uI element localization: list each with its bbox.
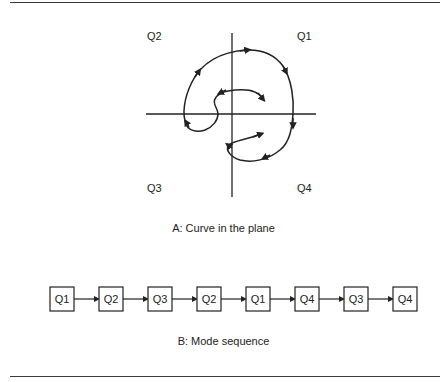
svg-text:Q3: Q3 bbox=[153, 293, 168, 305]
svg-text:Q1: Q1 bbox=[55, 293, 70, 305]
svg-text:Q2: Q2 bbox=[202, 293, 217, 305]
mode-box: Q3 bbox=[344, 287, 368, 311]
mode-sequence: Q1 Q2 Q3 Q2 Q1 Q4 Q3 bbox=[50, 287, 417, 311]
svg-text:Q2: Q2 bbox=[104, 293, 119, 305]
mode-box: Q2 bbox=[99, 287, 123, 311]
caption-part-b: B: Mode sequence bbox=[0, 335, 447, 347]
mode-box: Q4 bbox=[295, 287, 319, 311]
mode-box: Q1 bbox=[246, 287, 270, 311]
mode-box: Q1 bbox=[50, 287, 74, 311]
svg-text:Q4: Q4 bbox=[300, 293, 315, 305]
svg-text:Q1: Q1 bbox=[251, 293, 266, 305]
caption-part-a: A: Curve in the plane bbox=[0, 222, 447, 234]
svg-text:Q3: Q3 bbox=[349, 293, 364, 305]
mode-box: Q2 bbox=[197, 287, 221, 311]
mode-box: Q3 bbox=[148, 287, 172, 311]
axes bbox=[146, 33, 316, 197]
diagram-canvas: Q1 Q2 Q3 Q2 Q1 Q4 Q3 bbox=[0, 0, 447, 382]
mode-box: Q4 bbox=[393, 287, 417, 311]
plane-curve bbox=[184, 50, 293, 161]
svg-text:Q4: Q4 bbox=[398, 293, 413, 305]
